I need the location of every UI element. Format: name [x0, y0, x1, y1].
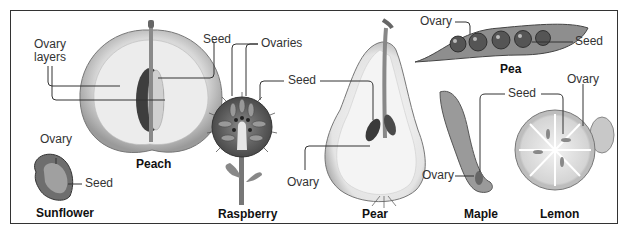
sunflower-ovary-label: Ovary — [40, 133, 72, 146]
raspberry-seed-label: Seed — [288, 74, 316, 87]
pea-name: Pea — [500, 62, 521, 76]
pea-illustration — [415, 24, 588, 62]
pea-ovary-label: Ovary — [420, 15, 452, 28]
sunflower-name: Sunflower — [36, 206, 94, 220]
maple-name: Maple — [464, 207, 498, 221]
maple-seed-label: Seed — [508, 87, 536, 100]
peach-ovary-label-line2: layers — [34, 50, 66, 64]
pear-illustration — [325, 20, 425, 208]
maple-ovary-label: Ovary — [422, 169, 454, 182]
sunflower-seed-label: Seed — [85, 177, 113, 190]
lemon-illustration — [515, 110, 614, 190]
raspberry-name: Raspberry — [218, 207, 277, 221]
pea-seed-label: Seed — [575, 35, 603, 48]
fruit-illustrations — [0, 0, 630, 236]
raspberry-ovaries-label: Ovaries — [261, 37, 302, 50]
lemon-ovary-label: Ovary — [567, 73, 599, 86]
peach-seed-label: Seed — [203, 33, 231, 46]
pear-name: Pear — [362, 207, 388, 221]
peach-name: Peach — [136, 157, 171, 171]
pear-ovary-label: Ovary — [287, 176, 319, 189]
sunflower-illustration — [35, 154, 73, 200]
peach-ovary-label-line1: Ovary — [34, 37, 66, 51]
raspberry-illustration — [207, 92, 277, 205]
peach-ovary-layers-label: Ovary layers — [34, 38, 66, 64]
lemon-name: Lemon — [540, 207, 579, 221]
